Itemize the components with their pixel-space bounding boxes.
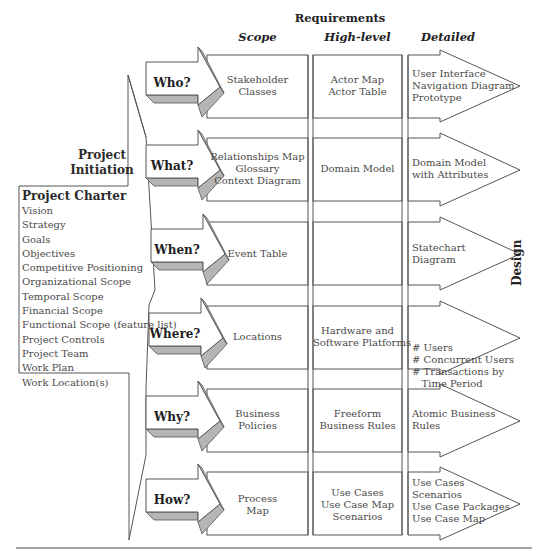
header-scope: Scope xyxy=(207,30,308,44)
who-scope: StakeholderClasses xyxy=(207,74,308,98)
why-high-level: FreeformBusiness Rules xyxy=(313,408,402,432)
project-initiation-line2: Initiation xyxy=(60,163,144,178)
why-detailed: Atomic BusinessRules xyxy=(412,408,495,432)
charter-item: Work Location(s) xyxy=(22,376,177,390)
charter-item: Financial Scope xyxy=(22,304,177,318)
who-detailed: User InterfaceNavigation DiagramPrototyp… xyxy=(412,68,515,104)
header-detailed: Detailed xyxy=(408,30,488,44)
charter-item: Competitive Positioning xyxy=(22,261,177,275)
question-who: Who? xyxy=(146,76,198,90)
charter-item: Temporal Scope xyxy=(22,290,177,304)
what-high-level: Domain Model xyxy=(313,163,402,175)
when-detailed: StatechartDiagram xyxy=(412,242,466,266)
charter-item: Strategy xyxy=(22,218,177,232)
header-design: Design xyxy=(510,240,524,286)
question-what: What? xyxy=(146,159,198,173)
how-scope: ProcessMap xyxy=(207,493,308,517)
who-high-level: Actor MapActor Table xyxy=(313,74,402,98)
where-high-level: Hardware andSoftware Platforms xyxy=(313,325,402,349)
charter-item: Work Plan xyxy=(22,361,177,375)
header-high-level: High-level xyxy=(313,30,402,44)
where-scope: Locations xyxy=(207,331,308,343)
why-scope: BusinessPolicies xyxy=(207,408,308,432)
question-when: When? xyxy=(151,243,203,257)
charter-item: Project Team xyxy=(22,347,177,361)
project-charter-title: Project Charter xyxy=(22,189,177,204)
charter-item: Vision xyxy=(22,204,177,218)
how-high-level: Use CasesUse Case MapScenarios xyxy=(313,487,402,523)
project-charter-list: Project Charter Vision Strategy Goals Ob… xyxy=(22,189,177,390)
where-detailed: # Users# Concurrent Users# Transactions … xyxy=(412,318,514,402)
what-detailed: Domain Modelwith Attributes xyxy=(412,157,488,181)
project-initiation-title: Project Initiation xyxy=(60,148,144,178)
when-scope: Event Table xyxy=(207,248,308,260)
header-requirements: Requirements xyxy=(290,11,390,25)
project-initiation-line1: Project xyxy=(60,148,144,163)
question-why: Why? xyxy=(146,410,198,424)
question-how: How? xyxy=(146,493,198,507)
charter-item: Organizational Scope xyxy=(22,275,177,289)
how-detailed: Use CasesScenariosUse Case PackagesUse C… xyxy=(412,477,510,525)
question-where: Where? xyxy=(149,327,201,341)
what-scope: Relationships MapGlossaryContext Diagram xyxy=(207,151,308,187)
